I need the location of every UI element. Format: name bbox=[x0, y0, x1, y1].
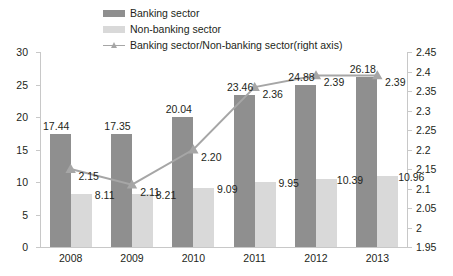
left-axis-ticklabel: 5 bbox=[22, 210, 28, 220]
left-axis-ticklabel: 25 bbox=[16, 80, 28, 90]
data-label-ratio: 2.39 bbox=[376, 77, 414, 88]
chart-legend: Banking sector Non-banking sector Bankin… bbox=[103, 6, 342, 52]
data-label-banking-sector: 20.04 bbox=[160, 104, 198, 115]
right-axis-ticklabels: 1.9522.052.12.152.22.252.32.352.42.45 bbox=[414, 52, 453, 248]
legend-item-ratio: Banking sector/Non-banking sector(right … bbox=[103, 38, 342, 52]
right-axis-ticklabel: 1.95 bbox=[416, 242, 436, 252]
data-label-non-banking-sector: 9.95 bbox=[270, 178, 308, 189]
data-label-non-banking-sector: 10.39 bbox=[331, 175, 369, 186]
plot-area: 17.448.112.1517.358.212.1120.049.092.202… bbox=[40, 52, 408, 248]
right-axis-tick bbox=[408, 247, 412, 248]
right-axis-tick bbox=[408, 150, 412, 151]
right-axis-ticklabel: 2.1 bbox=[416, 184, 431, 194]
data-label-ratio: 2.39 bbox=[315, 77, 353, 88]
right-axis-ticklabel: 2.2 bbox=[416, 145, 431, 155]
legend-item-banking-sector: Banking sector bbox=[103, 6, 342, 20]
legend-line-marker-ratio bbox=[103, 41, 125, 50]
triangle-marker-icon bbox=[111, 42, 117, 48]
data-label-ratio: 2.11 bbox=[131, 187, 169, 198]
left-axis-ticklabel: 10 bbox=[16, 177, 28, 187]
right-axis-tick bbox=[408, 91, 412, 92]
data-label-non-banking-sector: 9.09 bbox=[208, 184, 246, 195]
right-axis-tick bbox=[408, 189, 412, 190]
right-axis-tick bbox=[408, 228, 412, 229]
x-axis-ticklabel: 2010 bbox=[163, 252, 224, 264]
left-axis-ticklabel: 0 bbox=[22, 242, 28, 252]
legend-item-non-banking-sector: Non-banking sector bbox=[103, 22, 342, 36]
data-label-ratio: 2.20 bbox=[192, 152, 230, 163]
x-axis-ticklabel: 2012 bbox=[285, 252, 346, 264]
data-label-banking-sector: 17.44 bbox=[37, 121, 75, 132]
chart-container: Banking sector Non-banking sector Bankin… bbox=[0, 0, 453, 276]
data-label-banking-sector: 17.35 bbox=[99, 121, 137, 132]
right-axis-tick bbox=[408, 169, 412, 170]
right-axis-ticklabel: 2.45 bbox=[416, 47, 436, 57]
x-axis-ticklabel: 2009 bbox=[101, 252, 162, 264]
right-axis-ticklabel: 2.4 bbox=[416, 67, 431, 77]
right-axis-ticklabel: 2.05 bbox=[416, 203, 436, 213]
right-axis-ticklabel: 2 bbox=[416, 223, 422, 233]
left-axis-ticklabel: 15 bbox=[16, 145, 28, 155]
left-axis-ticklabels: 051015202530 bbox=[0, 52, 34, 248]
legend-label-non-banking-sector: Non-banking sector bbox=[130, 23, 221, 35]
legend-swatch-banking-sector bbox=[103, 10, 125, 17]
data-label-ratio: 2.36 bbox=[254, 89, 292, 100]
left-axis-ticklabel: 30 bbox=[16, 47, 28, 57]
data-label-ratio: 2.15 bbox=[70, 171, 108, 182]
data-label-banking-sector: 26.18 bbox=[344, 64, 382, 75]
x-axis-ticklabel: 2008 bbox=[40, 252, 101, 264]
right-axis-tick bbox=[408, 72, 412, 73]
x-axis-ticklabel: 2011 bbox=[224, 252, 285, 264]
legend-swatch-non-banking-sector bbox=[103, 26, 125, 33]
data-label-non-banking-sector: 10.96 bbox=[392, 172, 430, 183]
right-axis-ticklabel: 2.25 bbox=[416, 125, 436, 135]
right-axis-tick bbox=[408, 130, 412, 131]
right-axis-tick bbox=[408, 208, 412, 209]
right-axis-tick bbox=[408, 52, 412, 53]
legend-label-ratio: Banking sector/Non-banking sector(right … bbox=[130, 39, 342, 51]
right-axis-ticklabel: 2.35 bbox=[416, 86, 436, 96]
left-axis-ticklabel: 20 bbox=[16, 112, 28, 122]
x-axis-ticklabels: 200820092010201120122013 bbox=[40, 252, 408, 270]
right-axis-tick bbox=[408, 111, 412, 112]
right-axis-ticklabel: 2.3 bbox=[416, 106, 431, 116]
legend-label-banking-sector: Banking sector bbox=[130, 7, 199, 19]
x-axis-ticklabel: 2013 bbox=[347, 252, 408, 264]
data-label-non-banking-sector: 8.11 bbox=[86, 190, 124, 201]
